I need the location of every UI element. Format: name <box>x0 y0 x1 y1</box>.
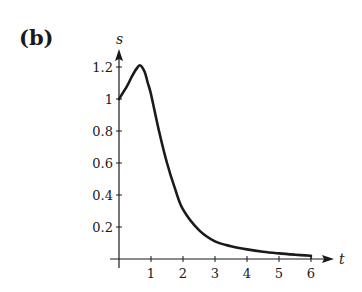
y-tick-label: 1.2 <box>92 60 113 75</box>
y-tick-label: 0.8 <box>92 124 113 139</box>
data-curve <box>119 65 311 255</box>
y-tick-label: 0.4 <box>92 188 113 203</box>
y-tick-label: 0.2 <box>92 220 113 235</box>
x-tick-label: 2 <box>179 266 187 281</box>
x-tick-label: 6 <box>307 266 315 281</box>
y-tick-label: 0.6 <box>92 156 113 171</box>
line-chart: ts1234560.20.40.60.811.2 <box>0 0 362 292</box>
y-tick-label: 1 <box>105 92 113 107</box>
x-tick-label: 5 <box>275 266 283 281</box>
x-tick-label: 4 <box>243 266 251 281</box>
x-axis-label: t <box>339 251 345 267</box>
x-tick-label: 1 <box>147 266 155 281</box>
x-tick-label: 3 <box>211 266 219 281</box>
y-axis-label: s <box>116 31 123 47</box>
